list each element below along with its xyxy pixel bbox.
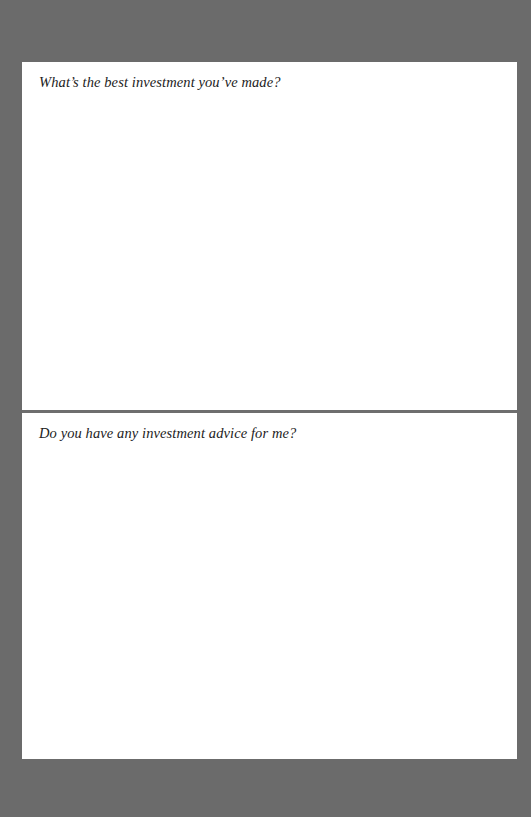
question-prompt-2: Do you have any investment advice for me… — [39, 425, 296, 442]
question-section-2: Do you have any investment advice for me… — [22, 413, 517, 759]
question-section-1: What’s the best investment you’ve made? — [22, 62, 517, 410]
question-prompt-1: What’s the best investment you’ve made? — [39, 74, 281, 91]
journal-page: What’s the best investment you’ve made? … — [22, 62, 517, 759]
